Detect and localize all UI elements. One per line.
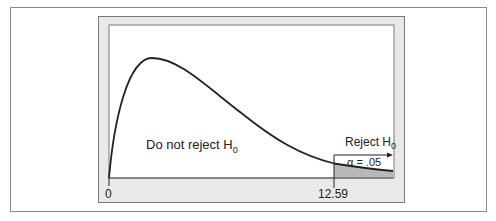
reject-label: Reject H0: [345, 135, 396, 151]
chart-plot: [0, 0, 496, 221]
do-not-reject-label: Do not reject H0: [146, 137, 238, 155]
tick-label-zero: 0: [105, 187, 112, 201]
alpha-label: α = .05: [347, 156, 381, 168]
tick-label-critical: 12.59: [318, 187, 348, 201]
